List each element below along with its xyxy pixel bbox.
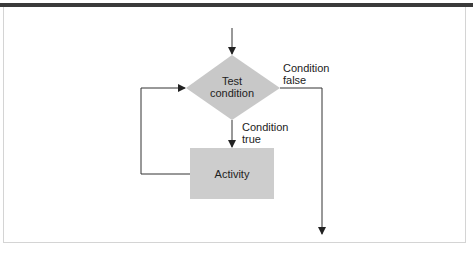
loop-back-arrow — [141, 88, 190, 174]
decision-label: Test condition — [198, 75, 266, 99]
condition-false-label: Condition false — [283, 62, 329, 86]
activity-label-text: Activity — [215, 168, 250, 180]
false-label-line2: false — [283, 74, 329, 86]
false-exit-arrow — [280, 88, 322, 234]
true-label-line2: true — [242, 133, 288, 145]
decision-label-line1: Test — [198, 75, 266, 87]
flowchart-canvas — [0, 0, 473, 256]
condition-true-label: Condition true — [242, 121, 288, 145]
true-label-line1: Condition — [242, 121, 288, 133]
false-label-line1: Condition — [283, 62, 329, 74]
activity-label: Activity — [190, 168, 274, 180]
decision-label-line2: condition — [198, 87, 266, 99]
